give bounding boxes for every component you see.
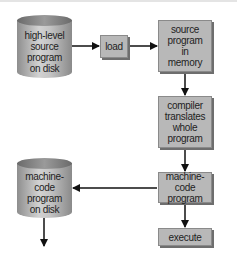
source-disk-label: high-level source program on disk bbox=[17, 29, 72, 74]
source-memory-label: source program in memory bbox=[167, 24, 202, 68]
machine-disk-label: machine- code program on disk bbox=[17, 172, 72, 214]
load-box: load bbox=[100, 35, 128, 58]
cylinder-top bbox=[17, 15, 72, 26]
machine-disk-cylinder: machine- code program on disk bbox=[17, 158, 72, 218]
source-disk-cylinder: high-level source program on disk bbox=[17, 15, 72, 78]
execute-box: execute bbox=[158, 228, 212, 246]
machine-code-label: machine-code program bbox=[159, 171, 211, 204]
execute-label: execute bbox=[169, 232, 202, 243]
machine-code-box: machine-code program bbox=[158, 172, 212, 203]
compiler-label: compiler translates whole program bbox=[165, 100, 205, 144]
source-memory-box: source program in memory bbox=[158, 20, 212, 72]
load-label: load bbox=[105, 41, 123, 52]
cylinder-top bbox=[17, 158, 72, 169]
compiler-box: compiler translates whole program bbox=[158, 96, 212, 148]
